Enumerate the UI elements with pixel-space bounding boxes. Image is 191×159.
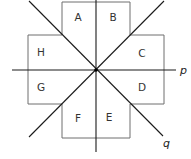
region-label-d: D xyxy=(138,81,146,93)
reflection-diagram: A B C D E F G H p q xyxy=(0,0,191,159)
region-label-a: A xyxy=(74,11,82,23)
region-label-h: H xyxy=(37,46,45,58)
region-label-g: G xyxy=(37,81,45,93)
region-label-f: F xyxy=(75,112,81,124)
region-label-e: E xyxy=(106,111,113,123)
region-label-b: B xyxy=(109,11,116,23)
region-label-c: C xyxy=(138,47,145,59)
line-label-p: p xyxy=(179,64,187,77)
center-point xyxy=(94,68,98,72)
line-label-q: q xyxy=(163,137,170,150)
